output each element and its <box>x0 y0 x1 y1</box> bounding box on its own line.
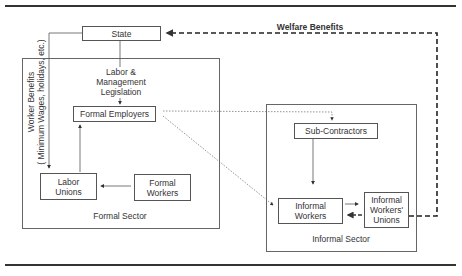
informal-sector-label: Informal Sector <box>291 234 391 244</box>
worker-benefits-label: Worker Benefits ( Minimum Wages, holiday… <box>26 37 46 167</box>
sub-contractors-node: Sub-Contractors <box>294 123 378 139</box>
formal-employers-label: Formal Employers <box>80 109 149 119</box>
state-label: State <box>112 29 132 39</box>
legislation-label: Labor & Management Legislation <box>90 67 152 97</box>
formal-workers-node: Formal Workers <box>134 174 191 201</box>
informal-workers-unions-node: Informal Workers' Unions <box>364 192 409 228</box>
sub-contractors-label: Sub-Contractors <box>305 126 367 136</box>
state-node: State <box>82 26 161 41</box>
labor-unions-node: Labor Unions <box>40 173 97 200</box>
welfare-benefits-label: Welfare Benefits <box>270 22 350 32</box>
formal-employers-node: Formal Employers <box>73 106 156 122</box>
formal-sector-label: Formal Sector <box>70 211 170 221</box>
informal-workers-node: Informal Workers <box>278 198 343 224</box>
connector-lines <box>0 0 462 276</box>
